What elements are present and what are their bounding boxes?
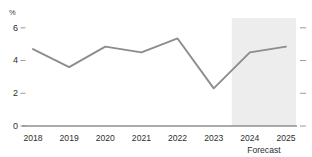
chart-canvas: % 6 4 2 0 2018 2019 2020 2021 2022 2023 <box>0 0 312 157</box>
y-axis-unit-label: % <box>9 8 16 17</box>
y-tick-label-6: 6 <box>13 23 18 33</box>
x-tick-label-2020: 2020 <box>96 133 115 143</box>
y-tick-label-0: 0 <box>13 121 18 131</box>
x-tick-label-2024: 2024 <box>240 133 259 143</box>
forecast-shaded-region <box>232 18 296 126</box>
y-tick-label-2: 2 <box>13 88 18 98</box>
x-tick-label-2025: 2025 <box>276 133 295 143</box>
x-tick-label-2021: 2021 <box>132 133 151 143</box>
x-tick-label-2018: 2018 <box>23 133 42 143</box>
x-tick-label-2022: 2022 <box>168 133 187 143</box>
line-chart-figure: % 6 4 2 0 2018 2019 2020 2021 2022 2023 <box>0 0 312 157</box>
x-tick-label-2019: 2019 <box>60 133 79 143</box>
y-tick-label-4: 4 <box>13 55 18 65</box>
x-tick-label-2023: 2023 <box>204 133 223 143</box>
forecast-region-label: Forecast <box>247 145 281 155</box>
